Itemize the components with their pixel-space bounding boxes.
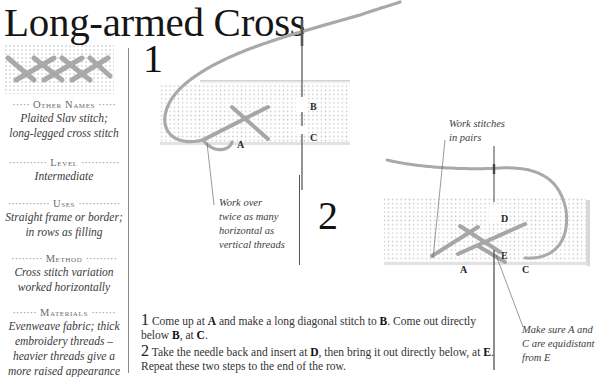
diagram-2-note-top: Work stitches in pairs (449, 117, 505, 145)
diagram-1-label-c: C (310, 132, 317, 143)
diagram-2-note-bottom: Make sure A and C are equidistant from E (522, 323, 595, 365)
diagram-2-label-c: C (522, 264, 529, 275)
diagram-1-label-a: A (237, 139, 244, 150)
diagram-1-note: Work over twice as many horizontal as ve… (219, 196, 285, 252)
instruction-step-2: 2 Take the needle back and insert at D, … (141, 344, 501, 373)
diagram-1-label-b: B (310, 101, 317, 112)
diagram-separator (299, 175, 300, 265)
diagram-2-step-number: 2 (318, 196, 338, 236)
fabric-swatch-2 (384, 198, 590, 266)
diagram-2-label-a: A (460, 264, 467, 275)
instruction-step-1: 1 Come up at A and make a long diagonal … (141, 313, 501, 342)
diagram-2-label-d: D (501, 213, 508, 224)
diagram-2-label-e: E (501, 250, 508, 261)
